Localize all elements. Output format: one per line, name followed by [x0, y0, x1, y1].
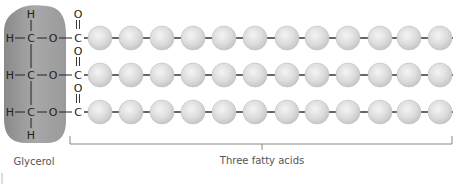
carbon-unit-ball	[88, 63, 112, 87]
fatty-acids-bracket	[70, 136, 452, 150]
oxygen: O	[49, 32, 58, 45]
carbon-unit-ball	[212, 26, 236, 50]
carbon-unit-ball	[397, 63, 421, 87]
carbon: C	[27, 32, 35, 45]
carbon-unit-ball	[275, 63, 299, 87]
bottom-hydrogen: H	[27, 129, 35, 142]
fatty-acid-chain-1: CO	[59, 8, 453, 50]
carbon-unit-ball	[150, 63, 174, 87]
carbon-unit-ball	[305, 100, 329, 124]
carbon-unit-ball	[305, 26, 329, 50]
carbon-unit-ball	[428, 100, 452, 124]
carbon-unit-ball	[368, 26, 392, 50]
fatty-acid-chains: COCOCO	[59, 8, 453, 124]
fatty-acid-chain-3: CO	[59, 82, 453, 124]
glycerol-row-2: H C O	[6, 69, 58, 82]
carbon-unit-ball	[243, 100, 267, 124]
hydrogen: H	[6, 69, 14, 82]
carbonyl-oxygen: O	[74, 45, 83, 58]
carbon-unit-ball	[397, 100, 421, 124]
carbon-unit-ball	[119, 26, 143, 50]
carbon-unit-ball	[150, 100, 174, 124]
fatty-acids-label: Three fatty acids	[219, 155, 304, 166]
carbon-unit-ball	[336, 26, 360, 50]
carbonyl-oxygen: O	[74, 8, 83, 21]
oxygen: O	[49, 69, 58, 82]
hydrogen: H	[6, 32, 14, 45]
carbon-unit-ball	[88, 26, 112, 50]
carbon-unit-ball	[428, 63, 452, 87]
carbon-unit-ball	[275, 26, 299, 50]
carbon-unit-ball	[119, 63, 143, 87]
carbonyl-carbon: C	[74, 69, 82, 82]
glycerol-label: Glycerol	[14, 156, 55, 167]
carbon-unit-ball	[397, 26, 421, 50]
carbon-unit-ball	[428, 26, 452, 50]
carbon-unit-ball	[212, 63, 236, 87]
carbon-unit-ball	[119, 100, 143, 124]
carbon-unit-ball	[212, 100, 236, 124]
glycerol-row-3: H C O	[6, 106, 58, 119]
top-hydrogen: H	[27, 8, 35, 21]
carbon-unit-ball	[181, 26, 205, 50]
carbon-unit-ball	[275, 100, 299, 124]
carbon-unit-ball	[243, 26, 267, 50]
carbon-unit-ball	[88, 100, 112, 124]
carbon-unit-ball	[336, 100, 360, 124]
oxygen: O	[49, 106, 58, 119]
fatty-acid-chain-2: CO	[59, 45, 453, 87]
carbon-unit-ball	[181, 100, 205, 124]
carbon-unit-ball	[305, 63, 329, 87]
carbon-unit-ball	[336, 63, 360, 87]
carbon: C	[27, 106, 35, 119]
carbon-unit-ball	[368, 100, 392, 124]
carbon: C	[27, 69, 35, 82]
carbon-unit-ball	[181, 63, 205, 87]
hydrogen: H	[6, 106, 14, 119]
carbonyl-carbon: C	[74, 32, 82, 45]
carbonyl-carbon: C	[74, 106, 82, 119]
carbon-unit-ball	[150, 26, 174, 50]
carbonyl-oxygen: O	[74, 82, 83, 95]
glycerol-row-1: H C O	[6, 32, 58, 45]
carbon-unit-ball	[368, 63, 392, 87]
triglyceride-diagram: H H H C O H C O H C O COCOCO Glycerol Th…	[0, 0, 453, 184]
carbon-unit-ball	[243, 63, 267, 87]
